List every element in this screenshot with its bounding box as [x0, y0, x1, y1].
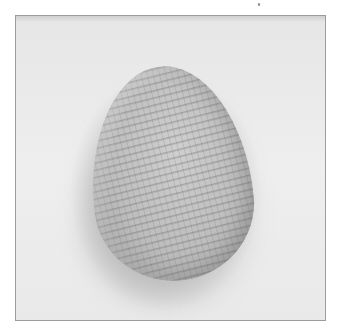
photo-frame: [15, 15, 326, 321]
page-speck: [258, 3, 260, 6]
frame-top-shade: [16, 16, 325, 22]
page: [0, 0, 338, 330]
